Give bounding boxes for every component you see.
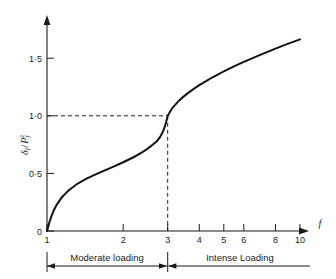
y-axis-title-slash: / bbox=[19, 144, 30, 147]
x-tick-label-10: 10 bbox=[295, 235, 305, 245]
y-tick-label-1-5: 1·5 bbox=[29, 54, 42, 64]
chart-figure: 0 0·5 1·0 1·5 δf/Pf2 1 2 3 bbox=[0, 0, 336, 279]
x-tick-label-3: 3 bbox=[165, 235, 170, 245]
y-tick-label-0-5: 0·5 bbox=[29, 169, 42, 179]
y-axis-title-denominator-sup: 2 bbox=[18, 135, 25, 138]
x-tick-label-2: 2 bbox=[121, 235, 126, 245]
x-tick-label-8: 8 bbox=[273, 235, 278, 245]
y-axis-title-text: δf/Pf2 bbox=[18, 135, 31, 155]
x-tick-label-1: 1 bbox=[44, 235, 49, 245]
chart-svg: 0 0·5 1·0 1·5 δf/Pf2 1 2 3 bbox=[0, 0, 336, 279]
x-tick-label-6: 6 bbox=[241, 235, 246, 245]
region-label-moderate: Moderate loading bbox=[70, 252, 143, 263]
y-tick-label-0: 0 bbox=[37, 227, 42, 237]
region-label-intense: Intense Loading bbox=[206, 252, 274, 263]
y-axis-title: δf/Pf2 bbox=[18, 135, 31, 155]
x-tick-label-4: 4 bbox=[197, 235, 202, 245]
y-tick-label-1-0: 1·0 bbox=[29, 111, 42, 121]
x-tick-label-5: 5 bbox=[221, 235, 226, 245]
